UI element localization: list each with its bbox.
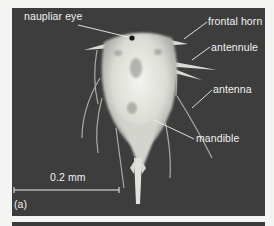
specimen-illustration (12, 8, 265, 216)
panel-label: (a) (14, 198, 27, 210)
label-naupliar-eye: naupliar eye (24, 10, 82, 22)
label-mandible: mandible (196, 132, 239, 144)
next-panel-edge (12, 222, 265, 226)
label-antenna: antenna (213, 83, 252, 95)
scale-bar-label: 0.2 mm (50, 171, 86, 183)
specimen-photo: naupliar eye frontal horn antennule ante… (12, 8, 265, 216)
label-antennule: antennule (211, 41, 258, 53)
label-frontal-horn: frontal horn (208, 15, 262, 27)
